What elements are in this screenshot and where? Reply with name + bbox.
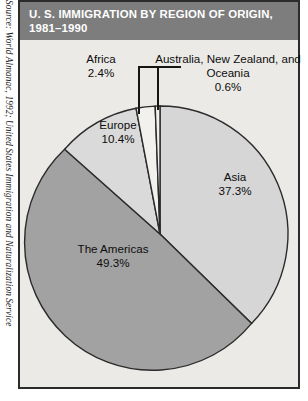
- pie-label-africa-name: Africa: [64, 52, 138, 66]
- chart-title-line-2: 1981–1990: [29, 21, 289, 35]
- pie-label-asia-value: 37.3%: [196, 184, 274, 198]
- pie-label-africa-value: 2.4%: [64, 66, 138, 80]
- pie-label-europe: Europe 10.4%: [76, 118, 160, 146]
- pie-label-australia-name: Australia, New Zealand, and Oceania: [140, 52, 308, 80]
- pie-label-europe-name: Europe: [76, 118, 160, 132]
- pie-label-asia-name: Asia: [196, 170, 274, 184]
- chart-title-line-1: U. S. IMMIGRATION BY REGION OF ORIGIN,: [29, 7, 289, 21]
- pie-label-australia-value: 0.6%: [140, 80, 308, 94]
- chart-frame: U. S. IMMIGRATION BY REGION OF ORIGIN, 1…: [18, 0, 300, 389]
- source-credit: Source: World Almanac, 1992; United Stat…: [0, 0, 16, 401]
- source-credit-text: Source: World Almanac, 1992; United Stat…: [3, 0, 12, 326]
- chart-title-bar: U. S. IMMIGRATION BY REGION OF ORIGIN, 1…: [20, 2, 298, 40]
- pie-label-americas-value: 49.3%: [50, 256, 176, 270]
- pie-label-americas-name: The Americas: [50, 242, 176, 256]
- pie-label-australia-new-zealand-oceania: Australia, New Zealand, and Oceania 0.6%: [140, 52, 308, 94]
- pie-label-asia: Asia 37.3%: [196, 170, 274, 198]
- pie-chart-plot-area: Africa 2.4% Australia, New Zealand, and …: [20, 40, 298, 387]
- pie-label-americas: The Americas 49.3%: [50, 242, 176, 270]
- pie-label-africa: Africa 2.4%: [64, 52, 138, 80]
- pie-label-europe-value: 10.4%: [76, 132, 160, 146]
